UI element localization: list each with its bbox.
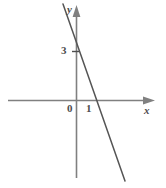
x-axis-label: x: [144, 105, 150, 116]
y-axis-label: y: [67, 4, 72, 15]
y-tick-label-3: 3: [61, 45, 67, 56]
plotted-line: [63, 4, 125, 181]
x-tick-label-1: 1: [86, 103, 92, 114]
y-axis-arrowhead: [73, 5, 81, 17]
origin-label: 0: [67, 103, 73, 114]
coordinate-plane-svg: [0, 0, 166, 188]
graph-figure: y x 3 0 1: [0, 0, 166, 188]
